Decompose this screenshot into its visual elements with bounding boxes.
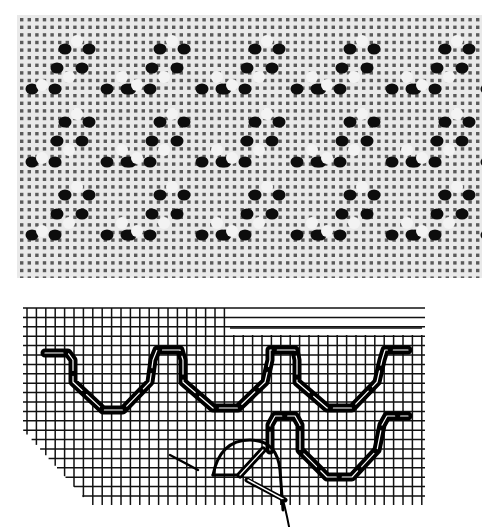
upper-stitch-path xyxy=(45,350,408,410)
fabric-photo xyxy=(17,15,482,278)
fabric-texture xyxy=(17,15,482,278)
stitch-diagram xyxy=(15,300,435,527)
stitch-grid xyxy=(15,300,435,527)
